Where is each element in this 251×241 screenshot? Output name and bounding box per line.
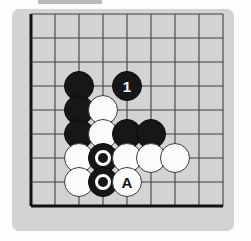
stone-layer: 1A: [0, 0, 251, 241]
stone-white-a[interactable]: A: [112, 167, 142, 197]
stone-label: 1: [123, 79, 131, 94]
stone-white[interactable]: [160, 143, 190, 173]
stone-label: A: [122, 175, 133, 190]
stone-marker-circle-icon: [95, 150, 111, 166]
stone-marker-circle-icon: [95, 174, 111, 190]
stone-black-1[interactable]: 1: [112, 71, 142, 101]
